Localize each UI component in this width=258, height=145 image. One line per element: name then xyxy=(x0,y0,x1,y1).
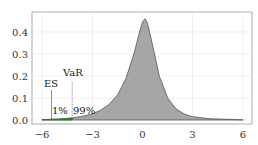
x-axis: −6 −3 0 3 6 xyxy=(35,129,247,140)
x-tick: 6 xyxy=(240,129,246,140)
x-tick: 3 xyxy=(189,129,195,140)
x-tick: 0 xyxy=(139,129,145,140)
y-tick: 0.1 xyxy=(12,93,28,104)
left-pct-label: 1% xyxy=(52,105,68,116)
var-label: VaR xyxy=(62,67,83,78)
y-tick: 0.2 xyxy=(12,71,28,82)
x-tick: −3 xyxy=(85,129,100,140)
y-axis: 0.0 0.1 0.2 0.3 0.4 xyxy=(12,27,28,126)
es-label: ES xyxy=(44,78,58,89)
x-tick: −6 xyxy=(35,129,50,140)
chart: ES VaR 1% 99% 0.0 0.1 0.2 0.3 0.4 −6 −3 … xyxy=(0,0,258,145)
right-pct-label: 99% xyxy=(73,105,95,116)
y-tick: 0.3 xyxy=(12,49,28,60)
y-tick: 0.4 xyxy=(12,27,28,38)
y-tick: 0.0 xyxy=(12,115,28,126)
